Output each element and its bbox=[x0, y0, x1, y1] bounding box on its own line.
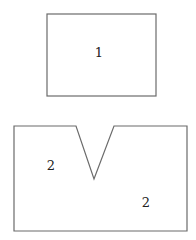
shape-1-label: 1 bbox=[95, 45, 103, 60]
notched-shape-2 bbox=[14, 126, 187, 231]
shape-2-label-right: 2 bbox=[142, 195, 150, 210]
shape-2-label-left: 2 bbox=[47, 158, 55, 173]
diagram-canvas: 1 2 2 bbox=[0, 0, 196, 240]
